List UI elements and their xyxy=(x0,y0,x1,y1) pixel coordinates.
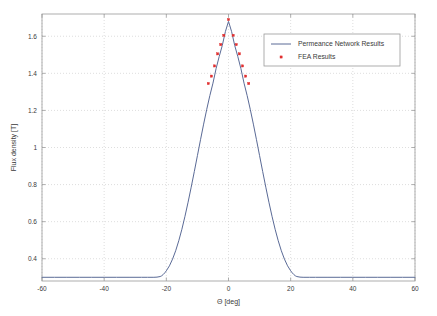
series-marker-fea xyxy=(217,53,219,55)
x-tick-label: -40 xyxy=(99,285,109,292)
x-tick-label: -20 xyxy=(162,285,172,292)
x-axis-title: Θ [deg] xyxy=(217,298,240,306)
series-marker-fea xyxy=(213,65,215,67)
flux-density-chart: -60-40-200204060 0.40.60.811.21.41.6 Θ [… xyxy=(0,0,437,316)
series-marker-fea xyxy=(248,82,250,84)
legend-swatch-marker xyxy=(280,56,282,58)
chart-figure: -60-40-200204060 0.40.60.811.21.41.6 Θ [… xyxy=(0,0,437,316)
legend-label-permeance-network-results: Permeance Network Results xyxy=(298,40,385,47)
y-tick-label: 0.6 xyxy=(28,218,37,225)
y-tick-label: 1.4 xyxy=(28,70,37,77)
y-tick-label: 1.2 xyxy=(28,107,37,114)
chart-legend[interactable]: Permeance Network ResultsFEA Results xyxy=(264,34,400,66)
y-tick-label: 0.8 xyxy=(28,181,37,188)
y-axis-title: Flux density [T] xyxy=(10,124,18,172)
y-tick-label: 1 xyxy=(33,144,37,151)
x-tick-label: -60 xyxy=(37,285,47,292)
legend-label-fea-results: FEA Results xyxy=(298,53,336,60)
x-tick-label: 40 xyxy=(349,285,357,292)
series-marker-fea xyxy=(241,65,243,67)
series-marker-fea xyxy=(238,53,240,55)
series-marker-fea xyxy=(232,34,234,36)
series-marker-fea xyxy=(235,43,237,45)
series-marker-fea xyxy=(245,75,247,77)
y-tick-label: 1.6 xyxy=(28,33,37,40)
series-marker-fea xyxy=(223,34,225,36)
series-marker-fea xyxy=(207,82,209,84)
series-marker-fea xyxy=(227,18,229,20)
x-tick-label: 20 xyxy=(287,285,295,292)
series-marker-fea xyxy=(210,75,212,77)
series-marker-fea xyxy=(220,43,222,45)
y-tick-label: 0.4 xyxy=(28,255,37,262)
legend-box[interactable] xyxy=(264,34,400,66)
x-tick-label: 0 xyxy=(227,285,231,292)
x-tick-label: 60 xyxy=(411,285,419,292)
